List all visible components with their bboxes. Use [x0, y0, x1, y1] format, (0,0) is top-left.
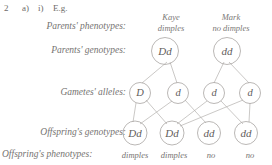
offspring-genotype-4: dd: [241, 128, 252, 139]
example-label: E.g.: [53, 3, 68, 13]
offspring-phenotype-1: dimples: [122, 150, 148, 160]
parent-name-1: Kaye: [146, 13, 196, 22]
row-label-gametes-alleles: Gametes' alleles:: [60, 88, 126, 98]
question-part-i: i): [38, 3, 44, 13]
parent-genotype-2: dd: [222, 46, 233, 57]
parent-name-2: Mark: [200, 13, 262, 22]
genetics-cross-diagram: 2 a) i) E.g. Parents' phenotypes: Parent…: [0, 0, 272, 165]
parent-genotype-1: Dd: [158, 46, 171, 57]
parent-phenotype-1: dimples: [146, 24, 196, 33]
parent-phenotype-2: no dimples: [200, 24, 262, 33]
offspring-phenotype-4: no: [246, 150, 255, 160]
offspring-phenotype-2: dimples: [161, 150, 187, 160]
row-label-parents-genotypes: Parents' genotypes:: [51, 46, 126, 56]
row-label-offspring-genotypes: Offspring's genotypes:: [40, 128, 126, 138]
offspring-genotype-2: Dd: [165, 128, 178, 139]
gamete-allele-3: d: [211, 88, 216, 99]
gamete-allele-2: d: [175, 88, 180, 99]
question-part-a: a): [22, 3, 29, 13]
offspring-phenotype-3: no: [207, 150, 216, 160]
gamete-allele-1: D: [136, 88, 144, 99]
question-number: 2: [4, 3, 9, 13]
offspring-genotype-1: Dd: [128, 128, 141, 139]
row-label-parents-phenotypes: Parents' phenotypes:: [46, 22, 126, 32]
gamete-allele-4: d: [247, 88, 252, 99]
offspring-genotype-3: dd: [204, 128, 215, 139]
row-label-offspring-phenotypes: Offspring's phenotypes:: [2, 150, 92, 160]
